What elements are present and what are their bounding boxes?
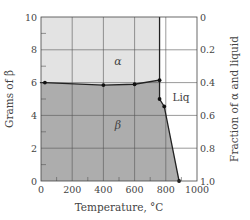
y-axis-left-label: Grams of β — [3, 70, 15, 128]
data-point — [162, 104, 166, 108]
phase-fraction-chart: 02004006008001000024681000.20.40.60.81.0… — [0, 0, 250, 220]
x-axis-label: Temperature, °C — [75, 201, 164, 213]
x-tick-label: 0 — [38, 184, 44, 195]
beta-region-label: β — [114, 119, 121, 132]
data-point — [158, 78, 162, 82]
y-left-tick-label: 4 — [31, 110, 37, 121]
x-tick-label: 200 — [63, 184, 81, 195]
y-right-tick-label: 0.6 — [200, 110, 215, 121]
y-right-tick-label: 0.4 — [200, 77, 215, 88]
y-axis-right-label: Fraction of α and liquid — [228, 36, 240, 162]
data-point — [102, 83, 106, 87]
y-left-tick-label: 10 — [25, 12, 37, 23]
liquid-region-label: Liq — [172, 91, 189, 103]
x-tick-label: 800 — [157, 184, 175, 195]
x-tick-label: 600 — [126, 184, 144, 195]
alpha-region-label: α — [114, 55, 122, 68]
x-tick-label: 400 — [94, 184, 112, 195]
data-point — [43, 81, 47, 85]
y-left-tick-label: 2 — [31, 143, 37, 154]
y-left-tick-label: 0 — [31, 176, 37, 187]
y-right-tick-label: 0 — [200, 12, 206, 23]
data-point — [158, 97, 162, 101]
beta-region — [41, 80, 179, 181]
data-point — [133, 82, 137, 86]
y-right-tick-label: 0.2 — [200, 44, 215, 55]
y-left-tick-label: 6 — [31, 77, 37, 88]
y-right-tick-label: 0.8 — [200, 143, 215, 154]
y-left-tick-label: 8 — [31, 44, 37, 55]
y-right-tick-label: 1.0 — [200, 176, 215, 187]
